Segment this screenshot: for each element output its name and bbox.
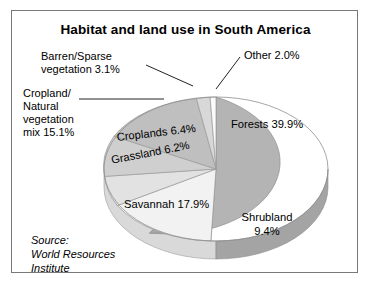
chart-page: Habitat and land use in South America [0, 0, 371, 296]
chart-frame: Habitat and land use in South America [11, 10, 358, 273]
leader-lines [79, 57, 240, 99]
pie-top-face [104, 97, 328, 241]
leader-line-other [216, 57, 240, 89]
source-attribution: Source: World Resources Institute [31, 233, 115, 275]
leader-line-barren [146, 65, 193, 86]
